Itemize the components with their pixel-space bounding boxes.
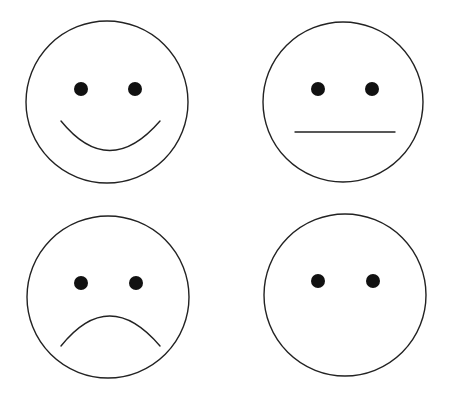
face-outline: [27, 216, 189, 378]
right-eye-icon: [365, 82, 379, 96]
face-outline: [264, 214, 426, 376]
face-sad: [27, 216, 189, 378]
right-eye-icon: [366, 274, 380, 288]
left-eye-icon: [311, 82, 325, 96]
left-eye-icon: [311, 274, 325, 288]
faces-diagram: [0, 0, 449, 397]
face-blank: [264, 214, 426, 376]
left-eye-icon: [74, 82, 88, 96]
right-eye-icon: [128, 82, 142, 96]
face-neutral: [263, 22, 423, 182]
face-happy: [26, 21, 188, 183]
face-outline: [26, 21, 188, 183]
left-eye-icon: [74, 276, 88, 290]
face-outline: [263, 22, 423, 182]
right-eye-icon: [129, 276, 143, 290]
